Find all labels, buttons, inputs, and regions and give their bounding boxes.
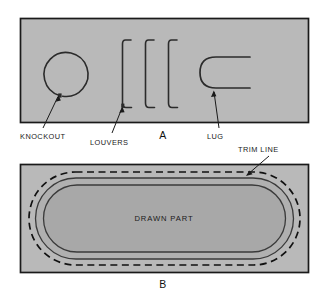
- trim-line-label: TRIM LINE: [238, 145, 279, 154]
- drawn-part-label: DRAWN PART: [134, 214, 193, 223]
- panel-a-sheet: [21, 19, 309, 123]
- knockout-label: KNOCKOUT: [20, 132, 66, 141]
- figure-letter-a: A: [159, 129, 166, 141]
- technical-diagram: KNOCKOUT LOUVERS LUG A DRAWN PART TRIM L…: [0, 0, 325, 300]
- louvers-label: LOUVERS: [90, 138, 128, 147]
- louver-tab: [121, 104, 124, 108]
- figure-root: KNOCKOUT LOUVERS LUG A DRAWN PART TRIM L…: [0, 0, 325, 300]
- panel-b-group: DRAWN PART TRIM LINE B: [21, 145, 309, 290]
- lug-label: LUG: [207, 132, 224, 141]
- figure-letter-b: B: [159, 278, 166, 290]
